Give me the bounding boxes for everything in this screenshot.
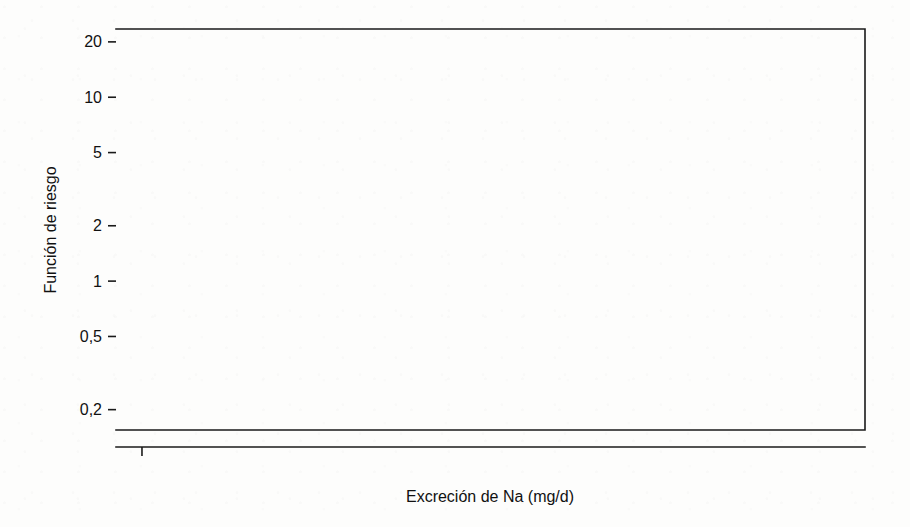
y-tick-label: 20	[84, 33, 102, 50]
y-tick-label: 0,2	[80, 401, 102, 418]
figure-root: 20105210,50,2 Función de riesgo Excreció…	[0, 0, 910, 527]
y-tick-label: 0,5	[80, 328, 102, 345]
y-tick-label: 1	[93, 273, 102, 290]
x-axis-title: Excreción de Na (mg/d)	[406, 488, 574, 505]
y-tick-label: 5	[93, 144, 102, 161]
figure-background	[0, 0, 910, 527]
hazard-function-plot: 20105210,50,2 Función de riesgo Excreció…	[0, 0, 910, 527]
y-tick-label: 2	[93, 217, 102, 234]
y-tick-label: 10	[84, 89, 102, 106]
y-axis-title: Función de riesgo	[42, 166, 59, 293]
